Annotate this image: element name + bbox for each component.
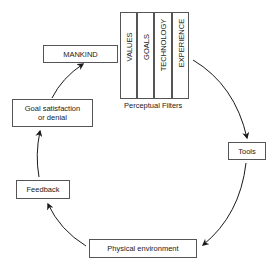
goal-satisfaction-line2: or denial bbox=[38, 113, 67, 122]
filter-values: VALUES bbox=[120, 12, 137, 99]
filter-technology: TECHNOLOGY bbox=[154, 12, 172, 99]
arrow-environment-to-feedback bbox=[48, 204, 86, 246]
mankind-label: MANKIND bbox=[63, 50, 98, 59]
arrow-goal-to-mankind bbox=[52, 64, 83, 98]
perceptual-filters-caption: Perceptual Filters bbox=[124, 101, 182, 110]
tools-node: Tools bbox=[228, 142, 266, 160]
feedback-label: Feedback bbox=[27, 185, 60, 194]
cycle-diagram: MANKIND VALUES GOALS TECHNOLOGY EXPERIEN… bbox=[0, 0, 276, 265]
arrow-filters-to-tools bbox=[193, 60, 247, 138]
mankind-node: MANKIND bbox=[43, 45, 118, 63]
arrow-tools-to-environment bbox=[203, 163, 246, 245]
physical-environment-node: Physical environment bbox=[89, 239, 197, 258]
filter-technology-label: TECHNOLOGY bbox=[159, 19, 168, 72]
arrow-feedback-to-goal bbox=[37, 131, 40, 177]
filter-values-label: VALUES bbox=[124, 32, 133, 61]
goal-satisfaction-line1: Goal satisfaction bbox=[25, 104, 80, 113]
goal-satisfaction-node: Goal satisfaction or denial bbox=[12, 99, 93, 127]
feedback-node: Feedback bbox=[16, 180, 70, 199]
filter-goals-label: GOALS bbox=[141, 34, 150, 60]
tools-label: Tools bbox=[238, 147, 256, 156]
physical-environment-label: Physical environment bbox=[107, 244, 178, 253]
filter-experience-label: EXPERIENCE bbox=[176, 19, 185, 67]
filter-experience: EXPERIENCE bbox=[172, 12, 189, 99]
filter-goals: GOALS bbox=[137, 12, 154, 99]
